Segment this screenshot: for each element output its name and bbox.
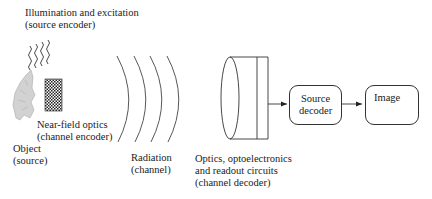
near-field-label-line2: (channel encoder) <box>37 131 113 143</box>
near-field-label: Near-field optics (channel encoder) <box>37 119 113 143</box>
illumination-label-line2: (source encoder) <box>25 19 139 31</box>
wavy-lines-icon <box>29 40 50 70</box>
optics-label-line3: (channel decoder) <box>195 177 292 189</box>
illumination-label: Illumination and excitation (source enco… <box>25 7 139 31</box>
checkered-grid-icon <box>45 79 62 111</box>
rock-object-icon <box>13 70 35 120</box>
radiation-label-line2: (channel) <box>131 164 172 176</box>
optics-label: Optics, optoelectronics and readout circ… <box>195 153 292 189</box>
optics-label-line2: and readout circuits <box>195 165 292 177</box>
radiation-label-line1: Radiation <box>131 152 172 164</box>
source-decoder-box: Source decoder <box>289 85 342 125</box>
source-decoder-line1: Source <box>301 93 330 105</box>
object-label-line1: Object <box>13 143 47 155</box>
lens-cylinder-icon <box>221 57 268 139</box>
wavefront-arcs-icon <box>117 56 179 142</box>
optics-label-line1: Optics, optoelectronics <box>195 153 292 165</box>
image-box-label: Image <box>374 92 400 104</box>
source-decoder-line2: decoder <box>299 105 332 117</box>
illumination-label-line1: Illumination and excitation <box>25 7 139 19</box>
object-label-line2: (source) <box>13 155 47 167</box>
object-label: Object (source) <box>13 143 47 167</box>
image-box: Image <box>365 85 419 125</box>
near-field-label-line1: Near-field optics <box>37 119 113 131</box>
radiation-label: Radiation (channel) <box>131 152 172 176</box>
